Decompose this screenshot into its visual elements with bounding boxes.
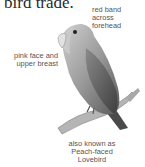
label-also-known-as: also known as Peach-faced Lovebird <box>62 140 122 164</box>
heading-text: bird trade. <box>4 0 74 13</box>
lovebird-illustration <box>48 18 145 138</box>
label-line: Lovebird <box>62 156 122 164</box>
